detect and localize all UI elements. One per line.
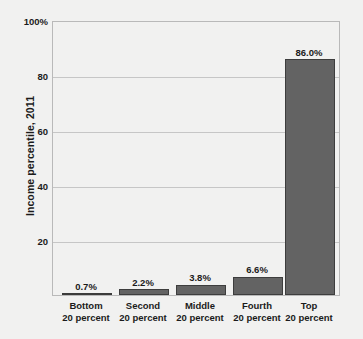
x-category-line1: Bottom [69, 300, 102, 311]
y-tick-label-100: 100% [4, 16, 48, 27]
bar-value-fourth-20-percent: 6.6% [246, 264, 268, 275]
bar-bottom-20-percent [62, 293, 112, 295]
x-category-line2: 20 percent [233, 312, 281, 324]
bar-chart: Income percentile, 2011 100% 80 60 40 20… [0, 0, 363, 339]
x-category-line2: 20 percent [119, 312, 167, 324]
bar-fourth-20-percent [233, 277, 283, 295]
y-tick-label-60: 60 [4, 126, 48, 137]
bar-second-20-percent [119, 289, 169, 295]
bar-value-bottom-20-percent: 0.7% [75, 281, 97, 292]
x-category-fourth-20-percent: Fourth 20 percent [233, 300, 281, 323]
x-category-line1: Second [126, 300, 160, 311]
x-category-bottom-20-percent: Bottom 20 percent [62, 300, 110, 323]
bar-value-top-20-percent: 86.0% [296, 47, 323, 58]
y-tick-label-20: 20 [4, 236, 48, 247]
x-category-line2: 20 percent [285, 312, 333, 324]
y-tick-label-40: 40 [4, 181, 48, 192]
bar-top-20-percent [285, 59, 335, 295]
plot-area [52, 21, 340, 296]
bar-value-middle-20-percent: 3.8% [189, 272, 211, 283]
x-category-line2: 20 percent [62, 312, 110, 324]
x-category-line1: Top [301, 300, 318, 311]
x-category-second-20-percent: Second 20 percent [119, 300, 167, 323]
bar-middle-20-percent [176, 285, 226, 296]
x-category-line1: Fourth [242, 300, 272, 311]
x-category-top-20-percent: Top 20 percent [285, 300, 333, 323]
y-tick-label-80: 80 [4, 71, 48, 82]
bar-value-second-20-percent: 2.2% [132, 277, 154, 288]
x-category-middle-20-percent: Middle 20 percent [176, 300, 224, 323]
x-category-line1: Middle [185, 300, 215, 311]
x-category-line2: 20 percent [176, 312, 224, 324]
